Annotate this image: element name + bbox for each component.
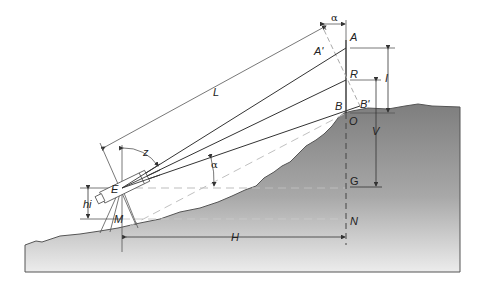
label-alpha-top: α [331,12,338,23]
label-l: L [213,86,219,98]
label-a: A [349,31,357,43]
label-b-prime: B' [360,98,370,110]
diagram-canvas: A A' R B B' O G N E M L I V H hi z α α [0,0,477,284]
label-alpha-mid: α [211,159,218,170]
label-z: z [142,146,149,158]
label-a-prime: A' [313,45,324,57]
label-m: M [114,213,124,225]
label-n: N [350,215,358,227]
zenith-angle-arc [123,148,158,166]
label-e: E [111,183,119,195]
label-g: G [350,175,359,187]
label-h: H [231,231,239,243]
label-o: O [349,115,358,127]
label-hi: hi [83,198,92,210]
label-b: B [335,100,342,112]
label-i: I [385,72,388,84]
label-r: R [350,68,358,80]
